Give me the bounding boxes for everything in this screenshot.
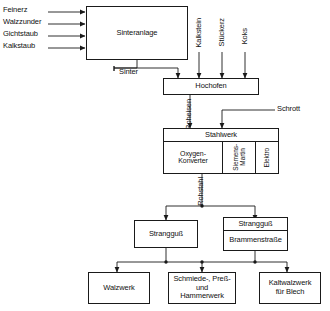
node-stahlwerk-title: Stahlwerk [164,129,278,142]
input-label-gichtstaub: Gichtstaub [3,30,38,38]
node-stranggu-a-label: Strangguß [135,229,197,240]
stahlwerk-process-row: Oxygen- Konverter Siemens- Martin Elektr… [164,142,278,173]
node-kaltwalzwerk-label: Kaltwalzwerk für Blech [260,278,320,298]
flow-label-sinter: Sinter [119,68,138,76]
node-sinteranlage-label: Sinteranlage [87,28,187,39]
node-hochofen[interactable]: Hochofen [163,78,259,95]
node-walzwerk[interactable]: Walzwerk [88,272,150,304]
flow-label-koks: Koks [241,28,249,44]
input-label-kalkstaub: Kalkstaub [3,42,35,50]
node-stranggu-b-subtitle: Brammenstraße [224,231,287,250]
flow-label-kalkstein: Kalkstein [195,18,203,48]
stahlwerk-cell-oxygen-konverter[interactable]: Oxygen- Konverter [164,142,222,173]
node-kaltwalzwerk[interactable]: Kaltwalzwerk für Blech [259,272,321,304]
node-hochofen-label: Hochofen [164,81,258,92]
node-walzwerk-label: Walzwerk [89,283,149,294]
input-label-walzzunder: Walzzunder [3,18,41,26]
flow-label-rohstahl: Rohstahl [197,177,205,206]
flow-label-roheisen: Roheisen [185,99,193,130]
stahlwerk-cell-siemens-martin-label: Siemens- Martin [232,144,246,171]
node-schmiedewerk-label: Schmiede-, Preß- und Hammerwerk [169,274,235,303]
node-stranggu-a[interactable]: Strangguß [134,220,198,248]
flow-label-stueckerz: Stückerz [218,18,226,46]
node-stranggu-b[interactable]: Strangguß Brammenstraße [223,217,288,251]
flow-label-schrott: Schrott [277,105,300,113]
node-stahlwerk[interactable]: Stahlwerk Oxygen- Konverter Siemens- Mar… [163,128,279,174]
process-flowchart: Feinerz Walzzunder Gichtstaub Kalkstaub … [0,0,330,311]
node-schmiedewerk[interactable]: Schmiede-, Preß- und Hammerwerk [168,272,236,304]
stahlwerk-cell-elektro[interactable]: Elektro [255,142,278,173]
node-sinteranlage[interactable]: Sinteranlage [86,6,188,60]
stahlwerk-cell-elektro-label: Elektro [263,148,270,168]
stahlwerk-cell-siemens-martin[interactable]: Siemens- Martin [222,142,255,173]
node-stranggu-b-title: Strangguß [224,218,287,231]
input-label-feinerz: Feinerz [3,6,27,14]
